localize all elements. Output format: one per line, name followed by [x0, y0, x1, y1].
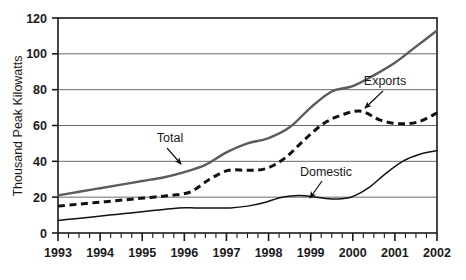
annotation-arrow-domestic — [310, 181, 322, 198]
y-axis-tick-label: 20 — [33, 191, 47, 205]
y-axis-title-text: Thousand Peak Kilowatts — [11, 55, 25, 196]
line-chart: 020406080100120 199319941995199619971998… — [0, 0, 466, 280]
y-axis-tick-label: 40 — [33, 155, 47, 169]
x-axis-minor-ticks — [58, 233, 437, 241]
annotation-label-domestic: Domestic — [300, 165, 352, 179]
x-axis-tick-label: 1993 — [44, 246, 72, 260]
y-axis-tick-labels: 020406080100120 — [26, 12, 47, 241]
annotation-label-total: Total — [157, 131, 183, 145]
x-axis-tick-label: 1994 — [86, 246, 114, 260]
x-axis-tick-label: 1996 — [170, 246, 198, 260]
x-axis-tick-label: 2001 — [381, 246, 409, 260]
x-axis-tick-label: 2002 — [423, 246, 451, 260]
series-annotations: TotalExportsDomestic — [157, 74, 406, 198]
y-axis-tick-label: 80 — [33, 83, 47, 97]
x-axis-tick-label: 1995 — [128, 246, 156, 260]
annotation-label-exports: Exports — [364, 74, 406, 88]
chart-container: 020406080100120 199319941995199619971998… — [0, 0, 466, 280]
x-axis-tick-labels: 1993199419951996199719981999200020012002 — [44, 246, 451, 260]
x-axis-tick-label: 1998 — [255, 246, 283, 260]
y-axis-tick-label: 0 — [40, 227, 47, 241]
y-axis-tick-marks — [52, 18, 58, 233]
x-axis-tick-label: 1999 — [297, 246, 325, 260]
x-axis-tick-label: 1997 — [213, 246, 241, 260]
y-axis-tick-label: 100 — [26, 47, 47, 61]
y-axis-tick-label: 120 — [26, 12, 47, 26]
y-axis-title: Thousand Peak Kilowatts — [11, 55, 25, 196]
x-axis-tick-label: 2000 — [339, 246, 367, 260]
annotation-arrow-exports — [365, 91, 383, 108]
y-axis-tick-label: 60 — [33, 119, 47, 133]
